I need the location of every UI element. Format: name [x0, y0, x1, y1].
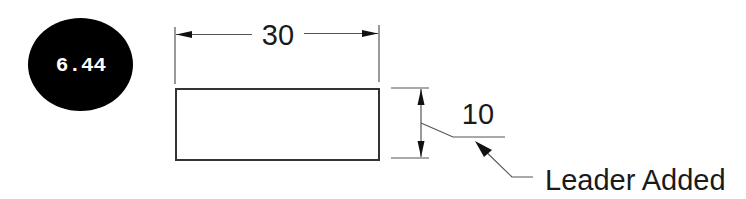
horizontal-dimension: 30 — [175, 19, 379, 84]
badge-label: 6.44 — [56, 54, 106, 77]
figure-number-badge: 6.44 — [28, 18, 133, 111]
arrowhead-right-icon — [362, 30, 378, 37]
arrowhead-left-icon — [176, 31, 192, 38]
arrowhead-down-icon — [418, 141, 425, 157]
rectangle-part — [176, 89, 379, 160]
leader-annotation: Leader Added — [475, 141, 726, 196]
leader-note: Leader Added — [545, 164, 726, 196]
technical-drawing: 6.44 30 10 Leader Added — [0, 0, 746, 199]
dimension-value-vertical: 10 — [462, 98, 494, 130]
arrowhead-up-icon — [418, 89, 425, 105]
dimension-value-horizontal: 30 — [262, 19, 294, 51]
vertical-dimension: 10 — [391, 88, 505, 158]
